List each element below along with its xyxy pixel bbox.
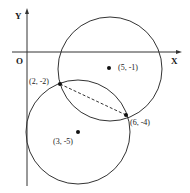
origin-label: O [16,56,23,66]
lower-center-label: (3, -5) [53,137,73,146]
intersection-label-2: (6, -4) [130,118,150,127]
coordinate-diagram: Y O X (5, -1) (3, -5) (2, -2) (6, -4) [0,0,190,193]
intersection-point-2 [124,113,128,117]
x-axis-label: X [171,56,178,66]
center-point-lower [76,130,80,134]
intersection-label-1: (2, -2) [29,77,49,86]
common-chord [60,84,126,115]
diagram-canvas: Y O X (5, -1) (3, -5) (2, -2) (6, -4) [0,0,190,193]
center-point-upper [107,66,111,70]
y-axis-arrow-icon [25,8,29,14]
y-axis-label: Y [15,11,22,21]
x-axis-arrow-icon [176,50,182,54]
intersection-point-1 [58,82,62,86]
upper-center-label: (5, -1) [118,63,138,72]
